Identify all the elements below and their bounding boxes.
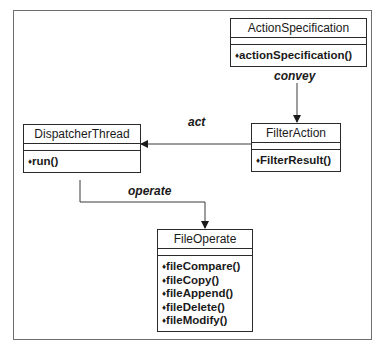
label-operate: operate [128, 184, 171, 198]
operations-compartment: ♦actionSpecification() [231, 45, 366, 66]
operation: ♦fileCopy() [162, 274, 249, 288]
label-convey: convey [274, 69, 315, 83]
class-name: FileOperate [158, 230, 252, 249]
operations-compartment: ♦fileCompare() ♦fileCopy() ♦fileAppend()… [158, 256, 252, 331]
label-act: act [188, 115, 205, 129]
class-name: ActionSpecification [231, 19, 366, 38]
operations-compartment: ♦FilterResult() [252, 150, 340, 171]
operation: ♦actionSpecification() [235, 49, 363, 63]
operations-compartment: ♦run() [24, 151, 140, 172]
attributes-compartment [24, 144, 140, 151]
operation: ♦fileAppend() [162, 287, 249, 301]
class-action-specification[interactable]: ActionSpecification ♦actionSpecification… [230, 18, 367, 67]
operation: ♦run() [28, 155, 137, 169]
class-file-operate[interactable]: FileOperate ♦fileCompare() ♦fileCopy() ♦… [157, 229, 253, 332]
operation: ♦fileCompare() [162, 260, 249, 274]
attributes-compartment [231, 38, 366, 45]
operation: ♦FilterResult() [256, 154, 337, 168]
operation: ♦fileDelete() [162, 301, 249, 315]
attributes-compartment [158, 249, 252, 256]
operation: ♦fileModify() [162, 314, 249, 328]
class-name: DispatcherThread [24, 125, 140, 144]
class-dispatcher-thread[interactable]: DispatcherThread ♦run() [23, 124, 141, 173]
class-name: FilterAction [252, 124, 340, 143]
attributes-compartment [252, 143, 340, 150]
class-filter-action[interactable]: FilterAction ♦FilterResult() [251, 123, 341, 172]
